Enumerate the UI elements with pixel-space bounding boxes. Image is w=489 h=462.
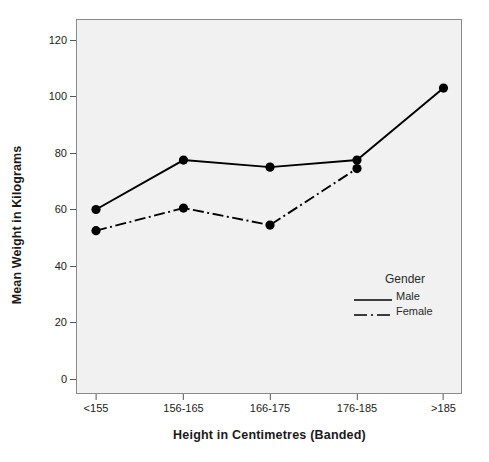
y-axis-tick-label: 120: [49, 35, 70, 46]
y-axis-tick-label: 20: [55, 317, 70, 328]
y-axis-tick-label: 80: [55, 148, 70, 159]
x-axis-tick-label: 156-165: [163, 402, 203, 414]
x-axis-title: Height in Centimetres (Banded): [76, 428, 463, 442]
chart-page: Mean Weight in Kilograms 020406080100120…: [0, 0, 489, 462]
legend-line-swatch: [354, 291, 392, 301]
x-axis-tick: <155: [84, 394, 109, 414]
y-axis-tick-mark: [70, 379, 76, 380]
legend-title: Gender: [354, 272, 456, 286]
x-axis-tick: 166-175: [250, 394, 290, 414]
y-axis-tick-label: 0: [61, 374, 70, 385]
y-axis-tick-mark: [70, 266, 76, 267]
y-axis-tick-label: 60: [55, 204, 70, 215]
legend: Gender MaleFemale: [354, 272, 456, 318]
x-axis-tick: 176-185: [337, 394, 377, 414]
x-axis-tick-mark: [183, 394, 184, 400]
legend-item-label: Female: [396, 305, 433, 317]
plot-area: [76, 19, 462, 394]
x-axis-tick-mark: [443, 394, 444, 400]
y-axis-tick-label: 100: [49, 91, 70, 102]
legend-item-label: Male: [396, 290, 420, 302]
x-axis-tick-label: >185: [431, 402, 456, 414]
x-axis-tick-mark: [270, 394, 271, 400]
y-axis-tick-mark: [70, 322, 76, 323]
x-axis-tick-mark: [357, 394, 358, 400]
legend-entries: MaleFemale: [354, 288, 456, 318]
legend-item-male: Male: [354, 288, 456, 303]
x-axis-tick: >185: [431, 394, 456, 414]
y-axis-title: Mean Weight in Kilograms: [0, 0, 34, 462]
x-axis-tick-label: 166-175: [250, 402, 290, 414]
y-axis-tick-label: 40: [55, 261, 70, 272]
y-axis-tick-mark: [70, 96, 76, 97]
y-axis-tick-mark: [70, 153, 76, 154]
legend-item-female: Female: [354, 303, 456, 318]
x-axis-tick-mark: [96, 394, 97, 400]
y-axis-tick-mark: [70, 40, 76, 41]
x-axis-tick: 156-165: [163, 394, 203, 414]
y-axis-tick-mark: [70, 209, 76, 210]
x-axis-tick-label: <155: [84, 402, 109, 414]
y-axis-title-text: Mean Weight in Kilograms: [10, 146, 24, 316]
x-axis-tick-label: 176-185: [337, 402, 377, 414]
legend-line-swatch: [354, 306, 392, 316]
